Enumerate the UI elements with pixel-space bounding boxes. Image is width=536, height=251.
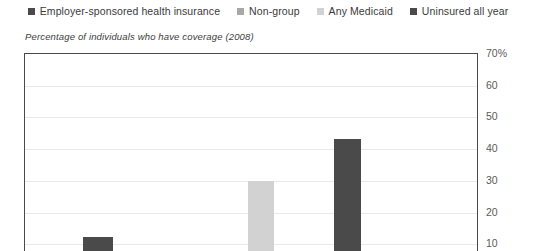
y-axis-tick-label: 30 (486, 175, 498, 186)
legend-item[interactable]: Non-group (237, 6, 300, 17)
chart-bar[interactable] (248, 181, 275, 251)
legend-item-label: Any Medicaid (329, 6, 393, 17)
square-swatch-icon (410, 8, 417, 15)
y-axis-tick-label: 10 (486, 238, 498, 249)
legend-item-label: Non-group (249, 6, 300, 17)
square-swatch-icon (317, 8, 324, 15)
chart-bar[interactable] (334, 139, 361, 251)
legend-item-label: Uninsured all year (422, 6, 508, 17)
y-axis-tick-label: 40 (486, 143, 498, 154)
chart-y-axis: 10203040506070% (486, 53, 536, 251)
legend-item[interactable]: Any Medicaid (317, 6, 393, 17)
square-swatch-icon (237, 8, 244, 15)
y-axis-tick-label: 20 (486, 207, 498, 218)
chart-bars (25, 54, 477, 251)
chart-subtitle: Percentage of individuals who have cover… (25, 31, 254, 42)
y-axis-tick-label: 50 (486, 111, 498, 122)
chart-plot-area (24, 53, 478, 251)
legend-item[interactable]: Employer-sponsored health insurance (28, 6, 220, 17)
square-swatch-icon (28, 8, 35, 15)
y-axis-tick-label: 70% (486, 48, 507, 59)
legend-item-label: Employer-sponsored health insurance (40, 6, 220, 17)
chart-bar[interactable] (83, 237, 112, 251)
chart-legend: Employer-sponsored health insuranceNon-g… (0, 0, 536, 22)
y-axis-tick-label: 60 (486, 80, 498, 91)
legend-item[interactable]: Uninsured all year (410, 6, 508, 17)
